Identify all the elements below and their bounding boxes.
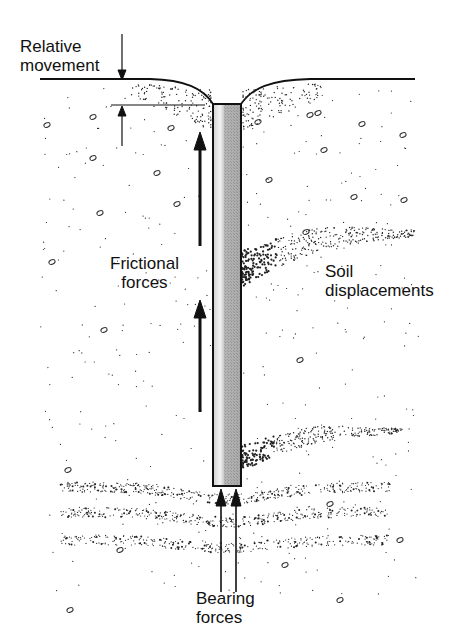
frictional-forces-line1: Frictional (110, 254, 179, 273)
relative-movement-indicator (111, 34, 205, 146)
bearing-forces-label: Bearing forces (196, 589, 255, 627)
bearing-forces-line2: forces (196, 608, 255, 627)
frictional-force-arrows (194, 132, 206, 412)
frictional-forces-line2: forces (110, 273, 179, 292)
relative-movement-line2: movement (20, 56, 99, 75)
ground-surface-line (40, 79, 415, 104)
bearing-force-arrows (216, 489, 241, 592)
soil-displacements-line2: displacements (325, 281, 434, 300)
relative-movement-label: Relative movement (20, 37, 99, 75)
relative-movement-line1: Relative (20, 37, 99, 56)
bearing-forces-line1: Bearing (196, 589, 255, 608)
pile-diagram (0, 0, 464, 632)
pile (213, 104, 241, 486)
soil-displacements-label: Soil displacements (325, 262, 434, 300)
soil-displacements-line1: Soil (325, 262, 434, 281)
frictional-forces-label: Frictional forces (110, 254, 179, 292)
